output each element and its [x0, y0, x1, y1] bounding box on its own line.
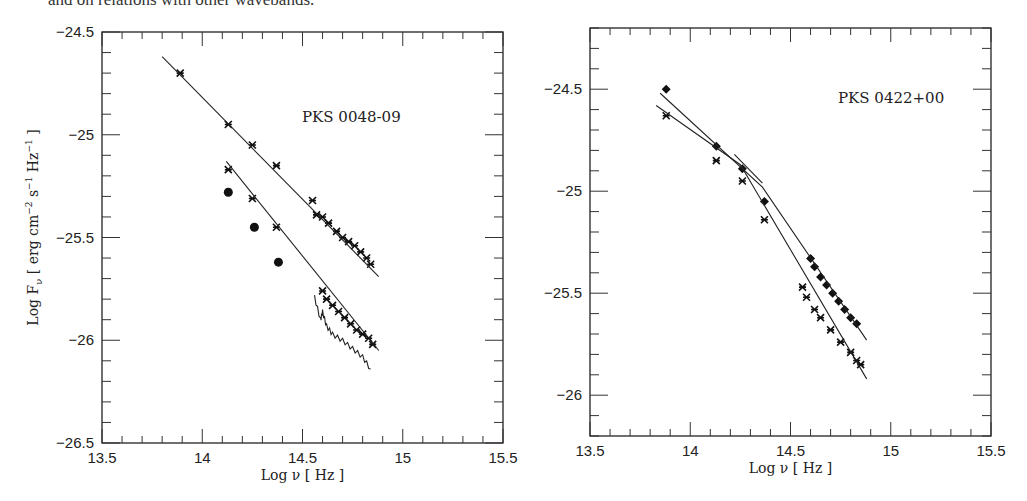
object-label: PKS 0422+00 — [838, 89, 944, 107]
figure: 13.51414.51515.5−24.5−25−25.5−26−26.5Log… — [0, 0, 1027, 501]
panel-pks-0422-00: 13.51414.51515.5−24.5−25−25.5−26Log ν [ … — [544, 28, 1006, 476]
y-tick-label: −25.5 — [544, 284, 582, 301]
data-point-star — [335, 308, 342, 315]
y-tick-label: −25 — [557, 182, 582, 199]
data-point-star — [827, 326, 834, 333]
data-point-star — [799, 284, 806, 291]
data-point-diamond — [662, 85, 671, 94]
x-tick-label: 15 — [882, 442, 899, 459]
x-tick-label: 15.5 — [488, 449, 517, 466]
series-lower-power-law-fit — [226, 161, 378, 350]
x-tick-label: 14 — [682, 442, 699, 459]
series-upper-power-law-fit — [162, 57, 379, 277]
data-point-star — [739, 178, 746, 185]
data-point-circle — [274, 258, 283, 267]
series-lower-spectrum-stars- — [225, 166, 376, 348]
data-point-star — [309, 197, 316, 204]
x-tick-label: 15 — [394, 449, 411, 466]
data-point-star — [811, 306, 818, 313]
x-axis-title: Log ν [ Hz ] — [261, 467, 345, 483]
data-point-star — [713, 157, 720, 164]
data-point-star — [351, 242, 358, 249]
plot-frame — [102, 32, 503, 443]
data-point-star — [817, 314, 824, 321]
y-tick-label: −26 — [69, 331, 94, 348]
series-star-spectrum — [663, 112, 864, 368]
data-point-star — [313, 211, 320, 218]
y-tick-label: −25 — [69, 126, 94, 143]
x-tick-label: 13.5 — [87, 449, 116, 466]
y-tick-label: −24.5 — [544, 80, 582, 97]
series-diamond-spectrum — [662, 85, 861, 329]
y-tick-label: −24.5 — [56, 23, 94, 40]
y-tick-label: −26 — [557, 386, 582, 403]
data-point-star — [341, 314, 348, 321]
series-upper-spectrum-stars- — [177, 70, 374, 268]
panel-pks-0048-09: 13.51414.51515.5−24.5−25−25.5−26−26.5Log… — [24, 23, 518, 483]
data-point-star — [319, 287, 326, 294]
data-point-circle — [224, 188, 233, 197]
data-point-star — [353, 326, 360, 333]
data-point-star — [803, 294, 810, 301]
data-point-star — [363, 255, 370, 262]
x-tick-label: 14 — [194, 449, 211, 466]
x-tick-label: 14.5 — [776, 442, 805, 459]
x-tick-label: 15.5 — [976, 442, 1005, 459]
data-point-star — [761, 216, 768, 223]
y-tick-label: −25.5 — [56, 229, 94, 246]
x-tick-label: 13.5 — [575, 442, 604, 459]
data-point-circle — [250, 223, 259, 232]
data-point-star — [329, 302, 336, 309]
y-axis-title: Log Fν [ erg cm−2 s−1 Hz−1 ] — [24, 129, 44, 325]
data-point-star — [663, 112, 670, 119]
object-label: PKS 0048-09 — [302, 108, 401, 126]
data-point-star — [347, 320, 354, 327]
fit-line — [162, 57, 379, 277]
y-tick-label: −26.5 — [56, 434, 94, 451]
data-point-star — [357, 248, 364, 255]
data-point-star — [323, 296, 330, 303]
series-star-fit — [656, 106, 867, 379]
fit-line — [226, 161, 378, 350]
data-point-star — [273, 162, 280, 169]
x-tick-label: 14.5 — [288, 449, 317, 466]
x-axis-title: Log ν [ Hz ] — [749, 460, 833, 476]
fit-line — [656, 106, 867, 379]
